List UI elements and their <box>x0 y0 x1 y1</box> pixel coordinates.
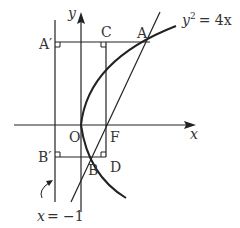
point-label-B-prime: B′ <box>38 149 51 165</box>
point-label-O: O <box>69 129 80 145</box>
point-label-F: F <box>110 129 120 145</box>
parabola-equation-label: y2= 4x <box>181 11 232 28</box>
y-axis-label: y <box>67 5 77 21</box>
directrix-label: x= −1 <box>37 208 84 224</box>
point-label-B: B <box>88 162 98 178</box>
point-label-A-prime: A′ <box>38 36 52 52</box>
directrix-pointer-arrow <box>41 180 53 198</box>
x-axis <box>14 121 196 129</box>
point-label-D: D <box>110 159 121 175</box>
point-label-C: C <box>101 24 112 40</box>
x-axis-label: x <box>190 126 198 142</box>
point-label-A: A <box>136 25 148 41</box>
parabola-diagram: y x A′ C A O F B′ B D y2= 4x x= −1 <box>0 0 240 228</box>
